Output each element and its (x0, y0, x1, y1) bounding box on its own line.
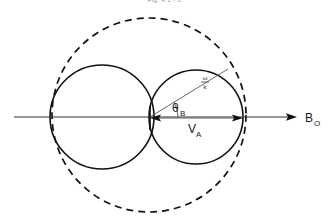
phase-velocity-radius-line (150, 69, 228, 117)
alfven-velocity-arrow (150, 114, 243, 121)
phase-velocity-numerator: ω (203, 75, 208, 81)
field-label: B O (305, 111, 320, 128)
phase-velocity-denominator: k (204, 84, 208, 90)
phase-velocity-diagram: B O V A θ B ω k (0, 0, 329, 224)
field-label-subscript: O (314, 119, 320, 128)
angle-label: θ B (172, 101, 185, 118)
alfven-velocity-label: V A (188, 122, 202, 139)
alfven-label-base: V (188, 122, 196, 136)
angle-label-subscript: B (180, 109, 185, 118)
angle-label-base: θ (172, 101, 179, 115)
phase-velocity-label: ω k (201, 75, 209, 90)
figure-container: Fig. 4.1 - 1 B O V (0, 0, 329, 224)
alfven-label-subscript: A (196, 130, 202, 139)
field-label-base: B (305, 111, 313, 125)
